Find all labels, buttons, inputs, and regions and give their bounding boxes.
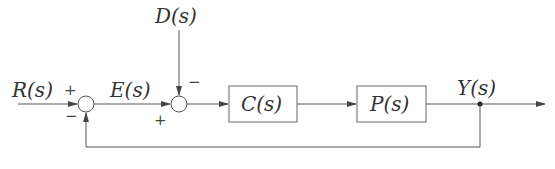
disturbance-signal-label: D(s) — [154, 4, 197, 28]
error-signal-label: E(s) — [109, 78, 150, 102]
sum1-minus-sign: − — [65, 107, 78, 125]
sum2-plus-sign: + — [154, 111, 167, 129]
summing-junction-2 — [171, 96, 187, 112]
reference-signal-label: R(s) — [11, 78, 53, 102]
sum1-plus-sign: + — [64, 81, 77, 99]
controller-label: C(s) — [241, 92, 282, 116]
summing-junction-1 — [78, 96, 94, 112]
sum2-minus-sign: − — [188, 73, 201, 91]
block-diagram: R(s) E(s) D(s) C(s) P(s) Y(s) + − − + — [0, 0, 555, 169]
output-signal-label: Y(s) — [457, 76, 496, 100]
plant-label: P(s) — [369, 92, 409, 116]
